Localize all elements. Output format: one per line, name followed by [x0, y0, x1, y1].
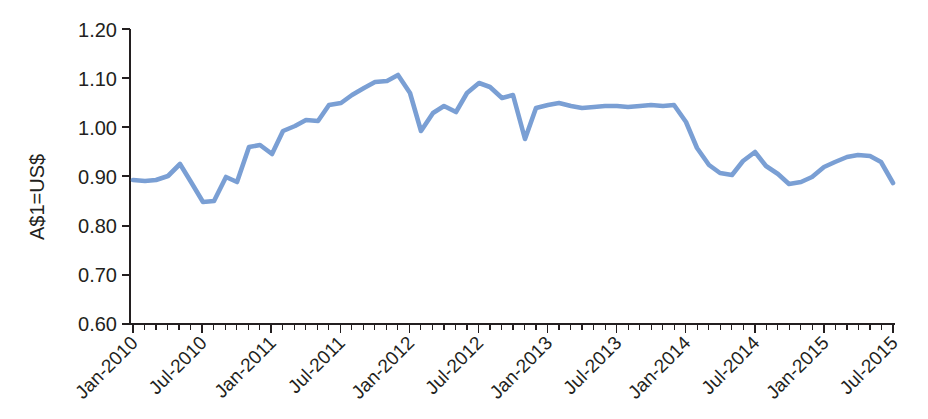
x-tick-label: Jan-2014: [624, 332, 695, 403]
x-tick-label: Jan-2010: [71, 332, 142, 403]
x-tick-label: Jan-2011: [210, 332, 280, 402]
x-tick-label: Jul-2011: [284, 332, 349, 397]
x-tick-label: Jan-2012: [347, 332, 418, 403]
x-tick-label: Jul-2012: [421, 332, 487, 398]
x-tick-label: Jul-2015: [835, 332, 901, 398]
y-axis: [122, 29, 130, 324]
x-minor-ticks: [145, 324, 882, 330]
y-tick-label-090: 0.90: [78, 166, 117, 188]
y-tick-labels: 1.20 1.10 1.00 0.90 0.80 0.70 0.60: [78, 19, 117, 335]
y-tick-label-060: 0.60: [78, 313, 117, 335]
y-axis-label: A$1=US$: [26, 154, 48, 240]
chart-container: A$1=US$ 1.20 1.10 1.00 0.90 0.80 0.70 0.…: [0, 0, 928, 419]
x-tick-label: Jul-2013: [559, 332, 625, 398]
y-tick-label-120: 1.20: [78, 19, 117, 41]
y-tick-label-100: 1.00: [78, 117, 117, 139]
x-tick-label: Jan-2013: [486, 332, 557, 403]
y-axis-label-group: A$1=US$: [26, 154, 48, 240]
y-tick-label-070: 0.70: [78, 264, 117, 286]
line-chart: A$1=US$ 1.20 1.10 1.00 0.90 0.80 0.70 0.…: [0, 0, 928, 419]
x-tick-labels: Jan-2010Jul-2010Jan-2011Jul-2011Jan-2012…: [71, 332, 902, 403]
y-tick-label-110: 1.10: [78, 68, 117, 90]
y-tick-label-080: 0.80: [78, 215, 117, 237]
x-tick-label: Jul-2010: [145, 332, 211, 398]
x-axis: [130, 324, 895, 333]
series-line-aud-usd: [133, 75, 893, 202]
x-tick-label: Jan-2015: [762, 332, 833, 403]
x-tick-label: Jul-2014: [697, 332, 764, 399]
